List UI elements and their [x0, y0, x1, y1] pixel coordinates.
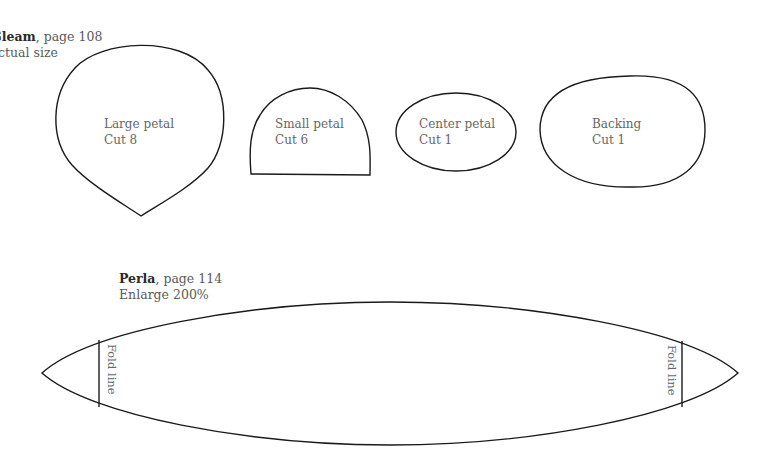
perla-caption: Perla, page 114 Enlarge 200% [119, 271, 222, 303]
gleam-page: , page 108 [36, 29, 103, 44]
perla-page: , page 114 [155, 271, 222, 286]
backing-label: Backing Cut 1 [592, 116, 641, 148]
center-petal-name: Center petal [419, 116, 495, 132]
gleam-caption: Gleam, page 108 Actual size [0, 29, 102, 61]
gleam-title: Gleam [0, 29, 36, 44]
perla-title: Perla [119, 271, 155, 286]
pattern-canvas [0, 0, 782, 472]
large-petal-name: Large petal [104, 116, 174, 132]
fold-label-right: Fold line [665, 345, 679, 396]
fold-label-left: Fold line [105, 344, 119, 395]
large-petal-label: Large petal Cut 8 [104, 116, 174, 148]
gleam-scale: Actual size [0, 45, 102, 61]
perla-scale: Enlarge 200% [119, 287, 222, 303]
small-petal-cut: Cut 6 [275, 132, 344, 148]
small-petal-name: Small petal [275, 116, 344, 132]
center-petal-cut: Cut 1 [419, 132, 495, 148]
small-petal-label: Small petal Cut 6 [275, 116, 344, 148]
backing-name: Backing [592, 116, 641, 132]
backing-cut: Cut 1 [592, 132, 641, 148]
center-petal-label: Center petal Cut 1 [419, 116, 495, 148]
large-petal-cut: Cut 8 [104, 132, 174, 148]
perla-shape [42, 302, 738, 445]
